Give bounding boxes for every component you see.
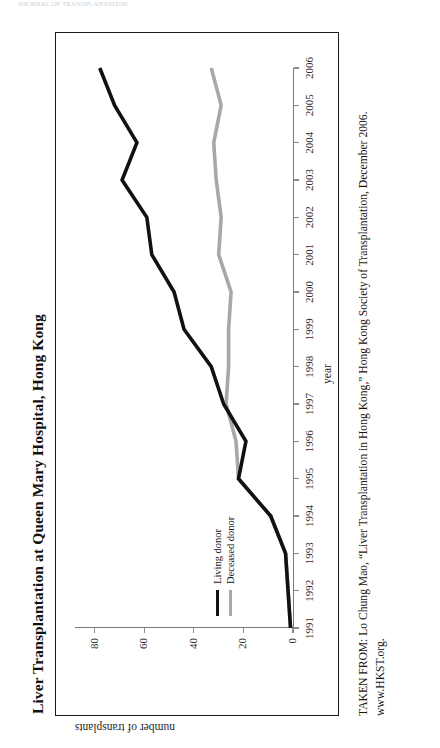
- x-tick-label: 1996: [303, 421, 315, 461]
- x-tick-label: 2006: [303, 48, 315, 88]
- chart-legend: Living donorDeceased donor: [211, 517, 237, 616]
- plot-area: [75, 68, 293, 628]
- x-tick-label: 2001: [303, 235, 315, 275]
- x-tick-mark: [294, 627, 299, 628]
- x-tick-mark: [294, 105, 299, 106]
- x-tick-label: 1998: [303, 347, 315, 387]
- legend-swatch: [216, 590, 219, 616]
- legend-swatch: [229, 590, 232, 616]
- x-tick-label: 1993: [303, 533, 315, 573]
- y-axis-label: number of transplants: [75, 722, 175, 734]
- x-tick-label: 1999: [303, 309, 315, 349]
- x-tick-mark: [294, 441, 299, 442]
- y-tick-label: 0: [286, 638, 298, 672]
- x-tick-mark: [294, 553, 299, 554]
- y-tick-mark: [193, 628, 194, 633]
- x-tick-mark: [294, 515, 299, 516]
- legend-item: Deceased donor: [224, 517, 237, 616]
- line-series-svg: [75, 68, 293, 628]
- figure-attribution: TAKEN FROM: Lo Chung Mao, “Liver Transpl…: [355, 38, 390, 716]
- x-tick-mark: [294, 366, 299, 367]
- x-tick-label: 2003: [303, 160, 315, 200]
- legend-label: Deceased donor: [225, 517, 236, 584]
- x-tick-label: 2000: [303, 272, 315, 312]
- series-line-living-donor: [100, 68, 291, 628]
- y-tick-mark: [94, 628, 95, 633]
- x-tick-mark: [294, 478, 299, 479]
- y-tick-mark: [292, 628, 293, 633]
- y-tick-label: 60: [137, 638, 149, 672]
- figure-container: Liver Transplantation at Queen Mary Hosp…: [25, 24, 415, 724]
- x-tick-label: 1992: [303, 571, 315, 611]
- x-tick-mark: [294, 590, 299, 591]
- page-header-text: JOURNAL OF TRANSPLANTATION: [18, 0, 138, 8]
- x-tick-label: 1994: [303, 496, 315, 536]
- x-tick-label: 1991: [303, 608, 315, 648]
- y-tick-mark: [144, 628, 145, 633]
- y-tick-label: 20: [236, 638, 248, 672]
- x-tick-mark: [294, 67, 299, 68]
- x-tick-label: 2002: [303, 197, 315, 237]
- x-tick-label: 2004: [303, 123, 315, 163]
- x-tick-label: 1995: [303, 459, 315, 499]
- x-tick-mark: [294, 403, 299, 404]
- x-tick-mark: [294, 254, 299, 255]
- page-header-strip: JOURNAL OF TRANSPLANTATION: [18, 0, 138, 8]
- x-tick-mark: [294, 217, 299, 218]
- x-axis-label: year: [321, 24, 333, 724]
- y-tick-label: 80: [88, 638, 100, 672]
- x-tick-mark: [294, 142, 299, 143]
- rotated-figure-stage: Liver Transplantation at Queen Mary Hosp…: [25, 24, 415, 724]
- legend-label: Living donor: [212, 529, 223, 584]
- x-tick-label: 1997: [303, 384, 315, 424]
- x-tick-label: 2005: [303, 85, 315, 125]
- x-axis-line: [293, 68, 294, 628]
- page-title: Liver Transplantation at Queen Mary Hosp…: [29, 314, 47, 714]
- x-tick-mark: [294, 329, 299, 330]
- y-tick-mark: [243, 628, 244, 633]
- x-tick-mark: [294, 179, 299, 180]
- y-tick-label: 40: [187, 638, 199, 672]
- x-tick-mark: [294, 291, 299, 292]
- legend-item: Living donor: [211, 517, 224, 616]
